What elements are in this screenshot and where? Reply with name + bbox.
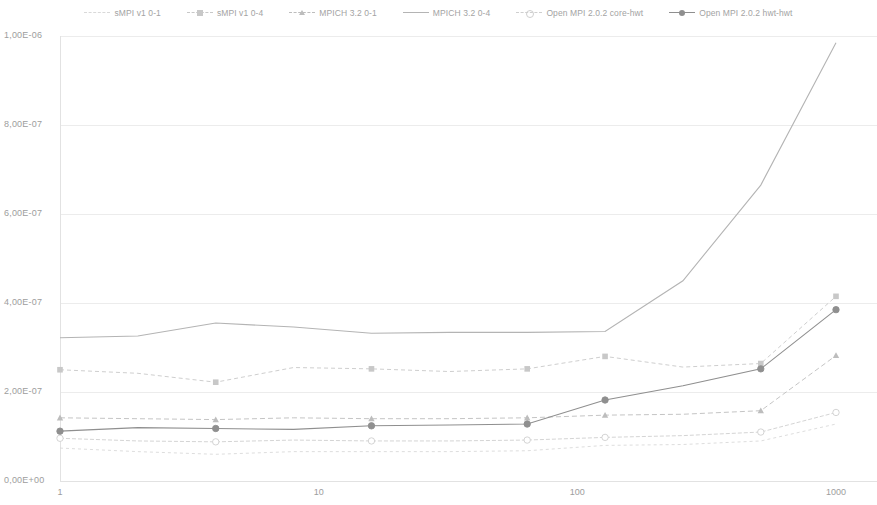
x-axis-tick-label: 100 [570, 487, 585, 497]
legend-item-1[interactable]: sMPI v1 0-1 [84, 8, 160, 18]
legend-swatch-icon [669, 8, 695, 18]
legend-item-2[interactable]: sMPI v1 0-4 [187, 8, 263, 18]
legend-marker-icon [197, 10, 203, 16]
gridline [60, 125, 877, 126]
y-axis-tick-label: 8,00E-07 [4, 119, 56, 129]
legend-item-label: Open MPI 2.0.2 core-hwt [546, 8, 643, 18]
legend-marker-icon [526, 10, 534, 18]
legend-item-label: Open MPI 2.0.2 hwt-hwt [699, 8, 792, 18]
y-axis-line [60, 36, 61, 482]
x-axis-tick-label: 1000 [826, 487, 846, 497]
y-axis-tick-label: 0,00E+00 [4, 475, 56, 485]
legend-swatch-icon [84, 8, 110, 18]
y-axis-tick-label: 2,00E-07 [4, 386, 56, 396]
legend-swatch-icon [187, 8, 213, 18]
legend-item-label: MPICH 3.2 0-1 [319, 8, 377, 18]
legend-marker-icon [299, 10, 305, 15]
legend-item-label: sMPI v1 0-4 [217, 8, 263, 18]
legend-item-5[interactable]: Open MPI 2.0.2 core-hwt [516, 8, 643, 18]
chart-legend: sMPI v1 0-1sMPI v1 0-4MPICH 3.2 0-1MPICH… [0, 0, 877, 26]
legend-marker-icon [679, 10, 685, 16]
y-axis-tick-label: 1,00E-06 [4, 30, 56, 40]
legend-swatch-icon [403, 8, 429, 18]
legend-item-label: sMPI v1 0-1 [114, 8, 160, 18]
legend-swatch-icon [289, 8, 315, 18]
gridline [60, 392, 877, 393]
gridline [60, 303, 877, 304]
legend-item-6[interactable]: Open MPI 2.0.2 hwt-hwt [669, 8, 792, 18]
legend-swatch-icon [516, 8, 542, 18]
y-axis-tick-labels: 0,00E+002,00E-074,00E-076,00E-078,00E-07… [0, 0, 56, 505]
legend-item-4[interactable]: MPICH 3.2 0-4 [403, 8, 491, 18]
y-axis-tick-label: 4,00E-07 [4, 297, 56, 307]
legend-item-label: MPICH 3.2 0-4 [433, 8, 491, 18]
y-axis-tick-label: 6,00E-07 [4, 208, 56, 218]
x-axis-tick-label: 10 [314, 487, 324, 497]
plot-area [60, 36, 877, 481]
gridline [60, 214, 877, 215]
legend-item-3[interactable]: MPICH 3.2 0-1 [289, 8, 377, 18]
x-axis-line [60, 481, 877, 482]
x-axis-tick-label: 1 [57, 487, 62, 497]
chart-container: sMPI v1 0-1sMPI v1 0-4MPICH 3.2 0-1MPICH… [0, 0, 877, 505]
gridline [60, 36, 877, 37]
